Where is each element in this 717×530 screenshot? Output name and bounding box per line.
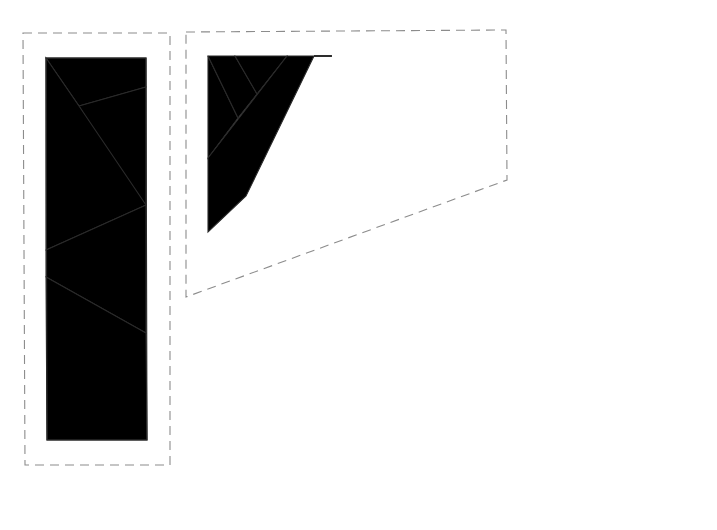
unit-a	[186, 30, 507, 297]
unit-d	[23, 33, 170, 465]
foundation-pattern-diagram	[0, 0, 717, 530]
